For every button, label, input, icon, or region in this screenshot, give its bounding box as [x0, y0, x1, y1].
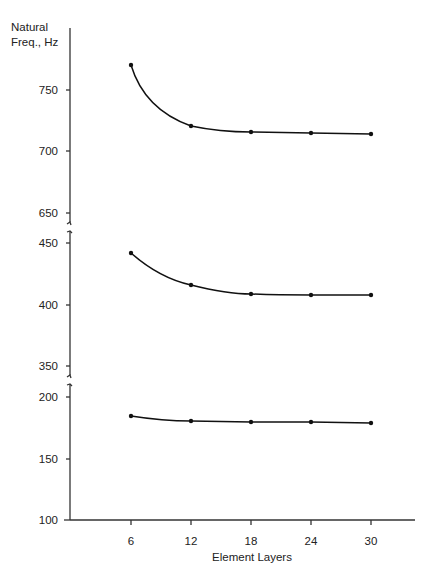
y-tick-450: 450: [39, 237, 58, 249]
y-axis: [67, 28, 72, 520]
y-tick-350: 350: [39, 360, 58, 372]
y-tick-150: 150: [39, 453, 58, 465]
y-tick-750: 750: [39, 84, 58, 96]
x-axis: 6 12 18 24 30 Element Layers: [70, 520, 415, 563]
series-middle: [129, 251, 373, 297]
x-tick-6: 6: [128, 535, 134, 547]
y-tick-700: 700: [39, 145, 58, 157]
series-lower: [129, 414, 373, 425]
axis-break-icon: [67, 222, 71, 225]
y-axis-label-line1: Natural: [11, 21, 48, 33]
y-tick-100: 100: [39, 514, 58, 526]
axis-break-icon: [67, 375, 71, 378]
x-tick-24: 24: [305, 535, 318, 547]
y-tick-200: 200: [39, 391, 58, 403]
natural-frequency-chart: Natural Freq., Hz 750 700 650 450 400 35…: [0, 0, 434, 578]
y-ticks: 750 700 650 450 400 350 200 150 100: [39, 84, 70, 526]
x-axis-label: Element Layers: [212, 551, 292, 563]
y-tick-400: 400: [39, 299, 58, 311]
y-tick-650: 650: [39, 207, 58, 219]
x-tick-30: 30: [365, 535, 378, 547]
x-tick-12: 12: [185, 535, 198, 547]
series-upper: [129, 63, 373, 136]
x-tick-18: 18: [245, 535, 258, 547]
y-axis-label-line2: Freq., Hz: [11, 36, 59, 48]
